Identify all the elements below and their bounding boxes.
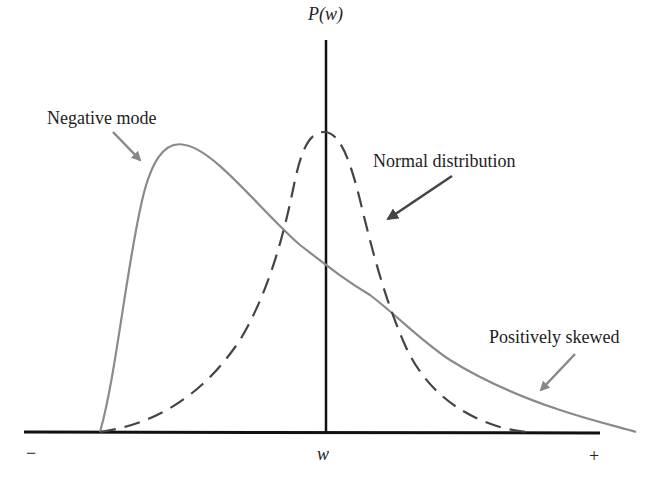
normal-curve (100, 132, 530, 432)
normal-distribution-arrow (388, 176, 452, 219)
x-plus-label: + (589, 446, 599, 466)
skewed-curve (100, 144, 636, 432)
y-axis-label: P(w) (307, 4, 343, 25)
x-minus-label: − (26, 443, 36, 463)
negative-mode-label: Negative mode (47, 108, 156, 128)
negative-mode-arrow (113, 132, 140, 160)
x-axis (24, 432, 600, 433)
distribution-diagram: P(w) Negative mode Normal distribution P… (0, 0, 662, 482)
positively-skewed-label: Positively skewed (489, 327, 620, 347)
x-center-label: w (317, 444, 329, 464)
normal-distribution-label: Normal distribution (373, 151, 516, 171)
positively-skewed-arrow (541, 354, 575, 390)
